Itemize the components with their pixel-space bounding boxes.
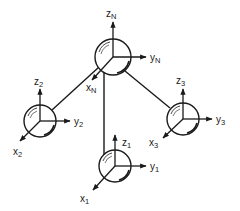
label-y2: y2 xyxy=(74,116,83,129)
label-yN: yN xyxy=(150,52,160,65)
node-1 xyxy=(93,135,146,190)
label-zN: zN xyxy=(106,8,116,21)
label-x1: x1 xyxy=(80,193,89,206)
node-N xyxy=(92,22,146,80)
label-y3: y3 xyxy=(216,114,225,127)
link-N-3 xyxy=(125,71,170,108)
node-3 xyxy=(163,89,212,138)
label-xN: xN xyxy=(86,82,96,95)
label-x2: x2 xyxy=(13,146,22,159)
label-y1: y1 xyxy=(150,161,159,174)
coordinate-frames-diagram: zN yN xN z2 y2 x2 z3 y3 x3 z1 y1 x1 xyxy=(0,0,240,211)
label-x3: x3 xyxy=(149,137,158,150)
label-z3: z3 xyxy=(176,75,185,88)
label-z1: z1 xyxy=(122,137,131,150)
node-2 xyxy=(20,89,70,141)
label-z2: z2 xyxy=(34,76,43,89)
